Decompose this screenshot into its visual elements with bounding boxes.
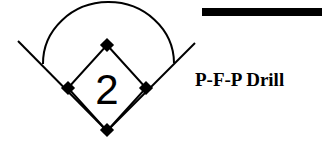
position-number: 2 [95,66,118,113]
header-bar [202,8,322,16]
drill-title: P-F-P Drill [195,69,284,91]
outfield-arc [43,2,174,64]
baseball-field-diagram: 2 [0,0,200,147]
